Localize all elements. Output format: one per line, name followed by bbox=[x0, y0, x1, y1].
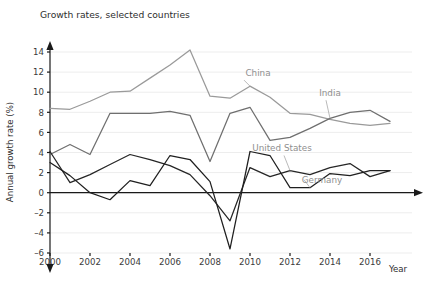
x-axis-ticks-group: 200020022004200620082010201220142016 bbox=[39, 253, 381, 267]
series-group bbox=[50, 50, 390, 249]
y-tick-label: –4 bbox=[34, 228, 44, 238]
gridlines-group bbox=[50, 52, 412, 253]
y-tick-label: 8 bbox=[39, 108, 44, 118]
y-axis-arrow-up bbox=[46, 41, 53, 50]
series-label-united-states: United States bbox=[252, 143, 312, 153]
y-tick-label: 10 bbox=[33, 87, 44, 97]
x-tick-label: 2008 bbox=[199, 257, 221, 267]
x-tick-label: 2012 bbox=[279, 257, 301, 267]
y-axis-arrow-down bbox=[46, 264, 53, 273]
x-axis-title: Year bbox=[388, 264, 408, 274]
y-tick-label: 2 bbox=[39, 168, 44, 178]
x-tick-label: 2016 bbox=[359, 257, 381, 267]
y-tick-label: 14 bbox=[33, 47, 44, 57]
leader-line-united-states bbox=[284, 155, 290, 170]
series-label-china: China bbox=[245, 68, 270, 78]
series-annotations-group: ChinaIndiaUnited StatesGermany bbox=[244, 68, 342, 188]
leader-line-china bbox=[244, 80, 250, 86]
y-tick-label: 12 bbox=[33, 67, 44, 77]
series-label-india: India bbox=[319, 88, 341, 98]
x-tick-label: 2002 bbox=[79, 257, 101, 267]
axes-group bbox=[46, 41, 423, 273]
x-axis-arrow-right bbox=[414, 189, 423, 196]
chart-title: Growth rates, selected countries bbox=[40, 9, 190, 20]
x-tick-label: 2004 bbox=[119, 257, 141, 267]
chart-container: –6–4–202468101214 2000200220042006200820… bbox=[0, 0, 435, 283]
x-tick-label: 2014 bbox=[319, 257, 341, 267]
y-axis-ticks-group: –6–4–202468101214 bbox=[33, 47, 50, 258]
series-line-india bbox=[50, 107, 390, 161]
leader-line-india bbox=[326, 100, 330, 118]
x-tick-label: 2010 bbox=[239, 257, 261, 267]
y-tick-label: –2 bbox=[34, 208, 44, 218]
y-tick-label: 6 bbox=[39, 128, 44, 138]
y-tick-label: 4 bbox=[39, 148, 44, 158]
series-label-germany: Germany bbox=[302, 175, 342, 185]
y-tick-label: 0 bbox=[39, 188, 44, 198]
x-tick-label: 2006 bbox=[159, 257, 181, 267]
growth-rates-line-chart: –6–4–202468101214 2000200220042006200820… bbox=[0, 0, 435, 283]
series-line-united-states bbox=[50, 152, 390, 221]
y-axis-title: Annual growth rate (%) bbox=[5, 102, 15, 202]
